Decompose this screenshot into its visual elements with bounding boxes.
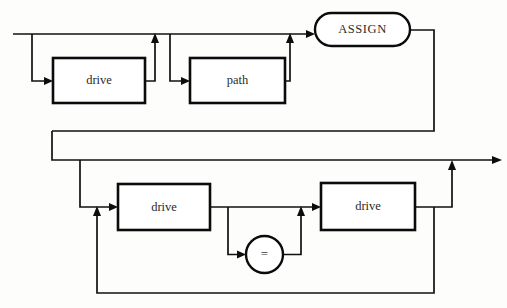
node-drive-mid-left-label: drive xyxy=(151,200,177,214)
arrow-into-drive-top-icon xyxy=(44,77,53,85)
syntax-diagram-canvas: drive path ASSIGN drive = drive xyxy=(0,0,507,308)
arrow-into-drive-mid-right-icon xyxy=(312,203,321,211)
node-equals-label: = xyxy=(261,246,268,261)
node-drive-mid-right-label: drive xyxy=(355,199,381,213)
node-drive-top-label: drive xyxy=(86,73,112,87)
rail-connector-band xyxy=(52,131,496,160)
rail-top-drive-return xyxy=(145,39,155,81)
node-assign-label: ASSIGN xyxy=(338,22,387,36)
rail-top-path-entry xyxy=(170,34,186,81)
arrow-diagram-exit-icon xyxy=(492,156,502,164)
arrow-up-to-exit-icon xyxy=(448,160,456,170)
arrow-into-equals-icon xyxy=(237,251,246,259)
railroad-diagram-svg: drive path ASSIGN drive = drive xyxy=(0,0,507,308)
arrow-into-path-top-icon xyxy=(181,77,190,85)
rail-equals-branch-entry xyxy=(228,207,242,255)
arrow-into-drive-mid-left-icon xyxy=(109,203,118,211)
node-path-top-label: path xyxy=(227,73,249,87)
arrow-into-assign-icon xyxy=(306,30,315,38)
rail-equals-return xyxy=(283,212,301,255)
rail-top-drive-entry xyxy=(32,34,49,81)
rail-mid-entry-drop xyxy=(80,160,114,207)
rail-right-exit xyxy=(415,166,452,207)
